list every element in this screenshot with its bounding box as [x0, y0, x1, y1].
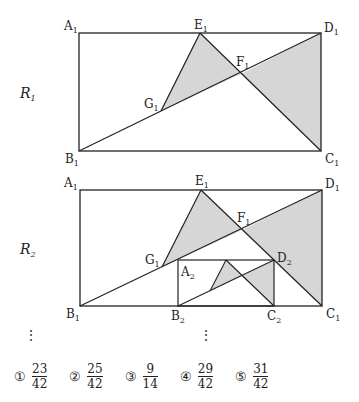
label-f1: F1: [237, 211, 250, 227]
choice-2[interactable]: ② 2542: [69, 362, 102, 391]
figure-r1: R1 A1 E1 D1 F1 G1 B1 C1: [19, 18, 339, 168]
choice-number: ①: [14, 369, 26, 384]
label-c2: C2: [267, 309, 281, 325]
choice-number: ③: [125, 369, 137, 384]
choice-1[interactable]: ① 2342: [14, 362, 47, 391]
choice-number: ⑤: [235, 369, 247, 384]
figure-label-r1: R1: [19, 85, 36, 103]
choice-number: ④: [180, 369, 192, 384]
answer-choices: ① 2342 ② 2542 ③ 914 ④ 2942 ⑤ 3142: [14, 356, 359, 396]
label-d1: D1: [324, 21, 339, 37]
label-d1: D1: [325, 177, 340, 193]
label-e1: E1: [194, 18, 208, 34]
label-a1: A1: [63, 19, 78, 35]
fraction: 2942: [198, 362, 213, 391]
fraction: 914: [143, 362, 158, 391]
label-b2: B2: [171, 309, 185, 325]
shaded-triangle-e1g1f1: [161, 33, 241, 111]
geometry-diagram: R1 A1 E1 D1 F1 G1 B1 C1 R2 A1 E1 D1 F1 G…: [0, 0, 359, 402]
label-f1: F1: [236, 55, 249, 71]
choice-4[interactable]: ④ 2942: [180, 362, 213, 391]
fraction: 2342: [32, 362, 47, 391]
fraction: 2542: [87, 362, 102, 391]
fraction: 3142: [253, 362, 268, 391]
figure-r2: R2 A1 E1 D1 F1 G1 A2 D2 B1 B2 C2 C1: [19, 174, 340, 325]
choice-3[interactable]: ③ 914: [125, 362, 158, 391]
label-c1: C1: [326, 307, 340, 323]
continuation-dots-left: ⋮: [24, 333, 38, 338]
choice-number: ②: [69, 369, 81, 384]
figure-label-r2: R2: [19, 241, 36, 259]
label-b1: B1: [66, 307, 80, 323]
label-e1: E1: [195, 174, 209, 190]
label-a1: A1: [63, 176, 78, 192]
continuation-dots-center: ⋮: [199, 333, 213, 338]
label-g1: G1: [145, 253, 160, 269]
shaded-triangle-e1g1f1: [162, 190, 242, 267]
label-c1: C1: [325, 152, 339, 168]
label-g1: G1: [144, 97, 159, 113]
shaded-triangle-f1d1c1: [241, 33, 321, 151]
label-b1: B1: [65, 152, 79, 168]
choice-5[interactable]: ⑤ 3142: [235, 362, 268, 391]
